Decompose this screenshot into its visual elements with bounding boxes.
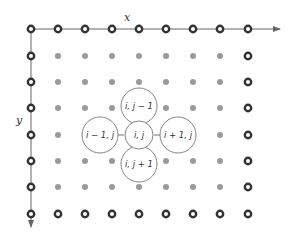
svg-text:i, j + 1: i, j + 1 <box>125 159 153 169</box>
interior-node <box>136 79 142 85</box>
y-axis-label: y <box>15 114 23 127</box>
svg-text:i, j − 1: i, j − 1 <box>125 101 153 111</box>
boundary-node <box>28 105 34 111</box>
boundary-node <box>28 158 34 164</box>
interior-node <box>217 158 223 164</box>
boundary-node <box>28 132 34 138</box>
boundary-node <box>28 53 34 59</box>
svg-text:i + 1, j: i + 1, j <box>164 130 193 140</box>
interior-node <box>82 158 88 164</box>
stencil-node-center: i, j <box>125 121 153 149</box>
boundary-node <box>136 211 142 217</box>
svg-text:i, j: i, j <box>134 130 145 140</box>
boundary-node <box>28 211 34 217</box>
boundary-node <box>245 184 251 190</box>
interior-node <box>190 184 196 190</box>
interior-node <box>163 79 169 85</box>
interior-node <box>136 53 142 59</box>
boundary-node <box>28 79 34 85</box>
interior-node <box>82 53 88 59</box>
interior-node <box>163 158 169 164</box>
interior-node <box>109 105 115 111</box>
boundary-node <box>190 26 196 32</box>
interior-node <box>163 105 169 111</box>
interior-node <box>82 105 88 111</box>
interior-node <box>82 184 88 190</box>
interior-node <box>55 158 61 164</box>
interior-node <box>109 79 115 85</box>
interior-node <box>55 184 61 190</box>
boundary-node <box>245 105 251 111</box>
interior-node <box>55 132 61 138</box>
interior-node <box>55 53 61 59</box>
boundary-node <box>245 26 251 32</box>
interior-node <box>217 132 223 138</box>
x-axis-label: x <box>124 11 131 24</box>
boundary-node <box>109 26 115 32</box>
svg-text:i − 1, j: i − 1, j <box>86 130 115 140</box>
interior-node <box>190 158 196 164</box>
interior-node <box>163 53 169 59</box>
boundary-node <box>163 26 169 32</box>
boundary-node <box>217 26 223 32</box>
boundary-node <box>190 211 196 217</box>
interior-node <box>190 105 196 111</box>
interior-node <box>217 184 223 190</box>
interior-node <box>217 105 223 111</box>
interior-node <box>217 79 223 85</box>
interior-node <box>190 79 196 85</box>
boundary-node <box>82 26 88 32</box>
boundary-node <box>28 184 34 190</box>
interior-node <box>136 184 142 190</box>
boundary-node <box>217 211 223 217</box>
boundary-node <box>163 211 169 217</box>
boundary-node <box>55 211 61 217</box>
boundary-node <box>245 53 251 59</box>
interior-node <box>109 184 115 190</box>
boundary-node <box>109 211 115 217</box>
finite-difference-grid-diagram: x y i, j − 1 i − 1, j i + 1, j i, j + 1 … <box>0 0 295 236</box>
stencil-node-left: i − 1, j <box>82 117 118 153</box>
interior-node <box>55 105 61 111</box>
interior-node <box>109 158 115 164</box>
boundary-node <box>245 158 251 164</box>
interior-node <box>55 79 61 85</box>
boundary-node <box>245 211 251 217</box>
boundary-node <box>245 79 251 85</box>
boundary-node <box>136 26 142 32</box>
stencil: i, j − 1 i − 1, j i + 1, j i, j + 1 i, j <box>82 88 196 182</box>
boundary-node <box>82 211 88 217</box>
boundary-node <box>55 26 61 32</box>
stencil-node-right: i + 1, j <box>160 117 196 153</box>
interior-node <box>190 53 196 59</box>
interior-node <box>163 184 169 190</box>
interior-node <box>109 53 115 59</box>
boundary-node <box>245 132 251 138</box>
interior-node <box>82 79 88 85</box>
stencil-node-top: i, j − 1 <box>121 88 157 124</box>
interior-node <box>217 53 223 59</box>
stencil-node-bottom: i, j + 1 <box>121 146 157 182</box>
boundary-node <box>28 26 34 32</box>
